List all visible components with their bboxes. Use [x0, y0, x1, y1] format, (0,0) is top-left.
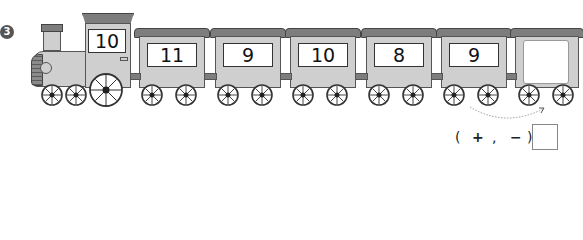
comma-separator: ,	[492, 129, 496, 145]
plus-option[interactable]: +	[472, 129, 484, 145]
operator-choice: ( + , − )	[455, 129, 535, 149]
wheel-icon	[90, 74, 122, 106]
open-paren: (	[455, 129, 460, 145]
answer-box[interactable]	[532, 124, 558, 150]
wheel-icon	[42, 85, 62, 105]
minus-option[interactable]: −	[510, 129, 522, 145]
wheel-icon	[66, 85, 86, 105]
arrow-icon	[470, 107, 543, 118]
